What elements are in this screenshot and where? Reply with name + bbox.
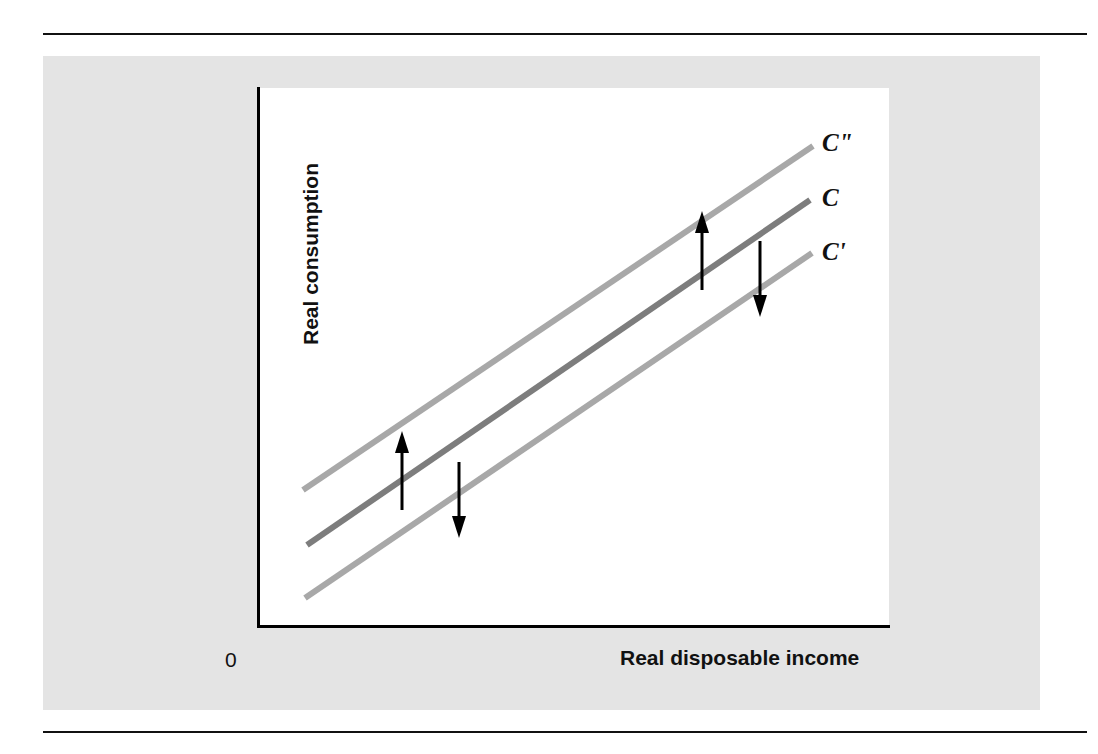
x-axis-line	[257, 625, 890, 628]
curve-label-c-lower: C'	[822, 238, 846, 266]
y-axis-line	[257, 87, 260, 628]
origin-label: 0	[225, 648, 237, 672]
y-axis-title: Real consumption	[299, 154, 323, 354]
figure-panel: C" C C' Real consumption Real disposable…	[43, 56, 1040, 710]
figure-page: C" C C' Real consumption Real disposable…	[0, 0, 1098, 754]
curve-label-c-upper: C"	[822, 129, 853, 157]
plot-canvas	[258, 88, 889, 627]
x-axis-title: Real disposable income	[620, 646, 859, 670]
top-divider-rule	[43, 33, 1087, 35]
curve-label-c-middle: C	[822, 184, 839, 212]
bottom-divider-rule	[43, 731, 1087, 733]
